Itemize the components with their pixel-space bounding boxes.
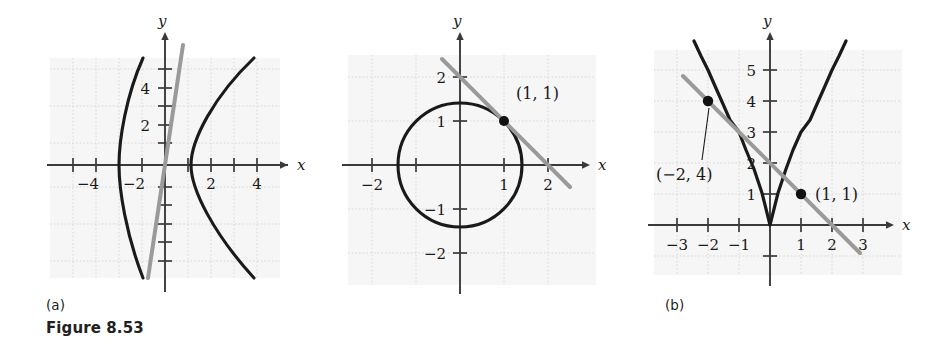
y-axis-arrow (161, 32, 168, 40)
y-tick-label: 2 (140, 117, 150, 135)
y-tick-label: 4 (746, 93, 756, 111)
panel-c-parabola-secant: −3 −2 −1 1 2 3 5 4 3 2 1 x y (−2, 4) (1,… (630, 0, 944, 300)
x-tick-label: 4 (252, 175, 262, 193)
x-tick-label: −4 (77, 175, 99, 193)
figure-caption: Figure 8.53 (46, 319, 144, 337)
x-tick-label: −2 (123, 175, 145, 193)
x-tick-label: −2 (361, 176, 383, 194)
x-tick-label: −1 (728, 236, 750, 254)
y-tick-label: 2 (436, 69, 446, 87)
panel-b-circle-tangent: −2 1 2 2 1 −1 −2 x y (1, 1) (b) (320, 0, 630, 300)
x-tick-label: 1 (499, 176, 509, 194)
point-marker (499, 116, 509, 126)
figure-8-53: −4 −2 2 4 4 2 x y (a) (0, 0, 944, 364)
x-tick-label: 2 (827, 236, 837, 254)
point-marker (703, 96, 713, 106)
x-tick-label: 2 (206, 175, 216, 193)
y-axis-label: y (762, 12, 772, 30)
x-tick-label: 1 (796, 236, 806, 254)
panel-b-svg: −2 1 2 2 1 −1 −2 x y (1, 1) (320, 0, 630, 300)
point-label: (−2, 4) (656, 165, 712, 184)
y-axis-arrow (456, 32, 463, 40)
y-axis-arrow (766, 32, 773, 40)
y-tick-label: 4 (140, 80, 150, 98)
x-tick-label: −2 (697, 236, 719, 254)
panel-c-svg: −3 −2 −1 1 2 3 5 4 3 2 1 x y (−2, 4) (1,… (630, 0, 944, 300)
y-tick-label: 1 (746, 186, 756, 204)
point-label: (1, 1) (815, 185, 858, 204)
x-axis-arrow (280, 161, 288, 168)
y-tick-label: 5 (746, 62, 756, 80)
x-axis-label: x (598, 156, 607, 174)
point-marker (796, 189, 806, 199)
x-tick-label: 2 (543, 176, 553, 194)
panel-a-hyperbola: −4 −2 2 4 4 2 x y (a) (0, 0, 320, 300)
x-tick-label: −3 (666, 236, 688, 254)
y-tick-label: −2 (424, 245, 446, 263)
x-axis-label: x (297, 156, 306, 174)
y-tick-label: 1 (436, 113, 446, 131)
y-axis-label: y (452, 12, 462, 30)
panel-label-a: (a) (46, 297, 65, 313)
panel-a-svg: −4 −2 2 4 4 2 x y (0, 0, 320, 300)
point-label: (1, 1) (516, 84, 559, 103)
x-axis-label: x (902, 216, 911, 234)
y-axis-label: y (157, 12, 167, 30)
